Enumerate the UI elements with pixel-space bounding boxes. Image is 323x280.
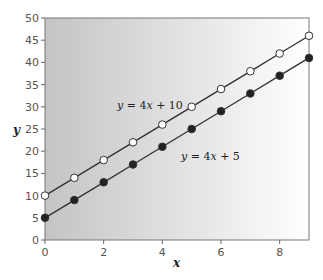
open-circle-marker	[217, 85, 225, 93]
annotation-line-2: y = 4x + 5	[180, 150, 240, 163]
line-chart: 05101520253035404550 02468 y x y = 4x + …	[0, 0, 323, 280]
y-axis: 05101520253035404550	[25, 12, 45, 247]
filled-circle-marker	[129, 161, 137, 169]
y-tick-label: 25	[25, 123, 39, 136]
y-tick-label: 50	[25, 12, 39, 25]
open-circle-marker	[41, 192, 49, 200]
x-tick-label: 6	[218, 246, 225, 259]
filled-circle-marker	[188, 125, 196, 133]
open-circle-marker	[305, 32, 313, 40]
x-axis: 02468	[42, 240, 284, 259]
filled-circle-marker	[305, 54, 313, 62]
open-circle-marker	[71, 174, 79, 182]
open-circle-marker	[188, 103, 196, 111]
y-tick-label: 20	[25, 145, 39, 158]
filled-circle-marker	[41, 214, 49, 222]
open-circle-marker	[159, 121, 167, 129]
y-tick-label: 15	[25, 167, 39, 180]
filled-circle-marker	[217, 107, 225, 115]
y-tick-label: 30	[25, 101, 39, 114]
open-circle-marker	[100, 156, 108, 164]
filled-circle-marker	[100, 178, 108, 186]
y-axis-label: y	[12, 123, 21, 137]
plot-area	[45, 18, 309, 240]
y-tick-label: 0	[32, 234, 39, 247]
y-tick-label: 35	[25, 79, 39, 92]
open-circle-marker	[247, 67, 255, 75]
x-tick-label: 0	[42, 246, 49, 259]
y-tick-label: 45	[25, 34, 39, 47]
y-tick-label: 10	[25, 190, 39, 203]
y-tick-label: 5	[32, 212, 39, 225]
x-tick-label: 2	[100, 246, 107, 259]
y-tick-label: 40	[25, 56, 39, 69]
filled-circle-marker	[247, 90, 255, 98]
open-circle-marker	[129, 139, 137, 147]
x-tick-label: 8	[276, 246, 283, 259]
open-circle-marker	[276, 50, 284, 58]
filled-circle-marker	[276, 72, 284, 80]
filled-circle-marker	[159, 143, 167, 151]
x-tick-label: 4	[159, 246, 166, 259]
annotation-line-1: y = 4x + 10	[116, 99, 183, 112]
x-axis-label: x	[172, 256, 181, 270]
filled-circle-marker	[71, 196, 79, 204]
